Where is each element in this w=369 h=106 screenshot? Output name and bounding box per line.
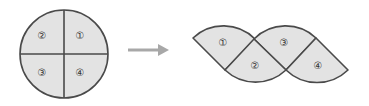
strip-label-3: ③: [280, 37, 289, 48]
strip-label-1: ①: [219, 37, 228, 48]
right-arrow-icon: [128, 44, 169, 56]
divided-circle: ① ② ③ ④: [20, 10, 108, 98]
circle-label-1: ①: [76, 30, 85, 41]
strip-label-2: ②: [251, 60, 260, 71]
circle-label-4: ④: [76, 67, 85, 78]
rearranged-strip: ① ② ③ ④: [193, 26, 348, 83]
circle-label-3: ③: [38, 67, 47, 78]
circle-label-2: ②: [38, 30, 47, 41]
diagram-canvas: ① ② ③ ④ ① ② ③ ④: [0, 0, 369, 106]
strip-label-4: ④: [314, 60, 323, 71]
